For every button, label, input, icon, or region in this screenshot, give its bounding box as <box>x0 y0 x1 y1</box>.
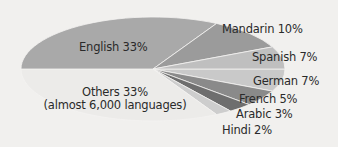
label-english: English 33% <box>79 41 148 54</box>
label-others: Others 33% (almost 6,000 languages) <box>40 86 190 112</box>
pie-chart: English 33% Mandarin 10% Spanish 7% Germ… <box>0 0 338 147</box>
label-arabic: Arabic 3% <box>236 108 293 121</box>
label-others-sub: (almost 6,000 languages) <box>40 99 190 112</box>
label-mandarin: Mandarin 10% <box>222 23 303 36</box>
label-spanish: Spanish 7% <box>252 51 317 64</box>
label-hindi: Hindi 2% <box>222 124 272 137</box>
label-french: French 5% <box>239 93 297 106</box>
label-german: German 7% <box>253 75 319 88</box>
